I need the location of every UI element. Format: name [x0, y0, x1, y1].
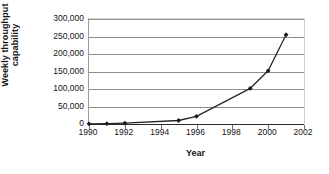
x-axis-line [89, 124, 304, 125]
y-axis-tick-labels: 050,000100,000150,000200,000250,000300,0… [34, 0, 84, 174]
x-axis-tick-label: 2000 [258, 127, 277, 137]
series-line [89, 35, 286, 124]
x-axis-tick-label: 2002 [294, 127, 313, 137]
series-line-group [89, 19, 304, 124]
data-point-marker [87, 121, 92, 126]
y-axis-title-line-1: Weekly throughput [0, 3, 10, 86]
x-axis-title: Year [88, 148, 303, 158]
y-axis-title: Weekly throughput capability [0, 0, 28, 100]
y-axis-tick-label: 100,000 [36, 83, 84, 93]
y-axis-tick-label: 250,000 [36, 31, 84, 41]
y-axis-tick-label: 200,000 [36, 48, 84, 58]
x-axis-tick-label: 1992 [114, 127, 133, 137]
x-axis-tick-label: 1998 [222, 127, 241, 137]
x-axis-tick-labels: 1990199219941996199820002002 [88, 127, 303, 141]
data-point-marker [194, 114, 199, 119]
y-axis-tick-label: 0 [36, 118, 84, 128]
data-point-marker [176, 118, 181, 123]
line-chart: Weekly throughput capability 050,000100,… [0, 0, 329, 174]
data-point-marker [105, 121, 110, 126]
data-point-marker [284, 32, 289, 37]
plot-area [88, 18, 305, 124]
y-axis-tick-label: 300,000 [36, 13, 84, 23]
y-axis-title-line-2: capability [10, 24, 21, 67]
series-markers [87, 32, 289, 126]
x-axis-tick-label: 1990 [79, 127, 98, 137]
y-axis-tick-label: 50,000 [36, 101, 84, 111]
x-axis-tick-label: 1994 [150, 127, 169, 137]
x-axis-tick-label: 1996 [186, 127, 205, 137]
y-axis-tick-label: 150,000 [36, 66, 84, 76]
